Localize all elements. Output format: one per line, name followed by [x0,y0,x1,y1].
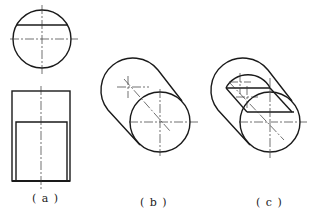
technical-drawing [0,0,309,221]
view-b-cylinder [101,58,190,152]
view-a-label: ( a ) [32,192,59,205]
view-b-label: ( b ) [140,196,168,209]
view-c-label: ( c ) [256,196,283,209]
view-c-cylinder [211,58,300,152]
